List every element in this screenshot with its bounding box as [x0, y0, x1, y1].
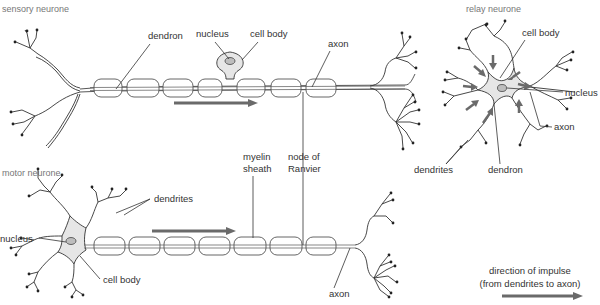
motor-nucleus — [66, 238, 76, 245]
label-relay-cell-body: cell body — [522, 27, 560, 38]
label-motor-dendrites: dendrites — [154, 193, 193, 204]
sensory-neurone-title: sensory neurone — [2, 4, 69, 14]
label-sensory-axon: axon — [328, 38, 349, 49]
label-relay-dendrites: dendrites — [414, 164, 453, 175]
relay-nucleus — [498, 85, 507, 92]
sensory-cell-body — [217, 52, 243, 79]
relay-neurone: relay neurone — [414, 4, 598, 175]
label-motor-node-line1: node of — [288, 151, 320, 162]
label-motor-nucleus: nucleus — [0, 233, 33, 244]
legend-line2: (from dendrites to axon) — [480, 278, 581, 289]
motor-axon-terminals — [355, 192, 398, 299]
sensory-neurone: sensory neurone — [2, 4, 420, 150]
label-motor-axon: axon — [329, 288, 350, 299]
sensory-myelin-sheaths — [90, 79, 405, 97]
motor-neurone: motor neurone — [0, 92, 398, 299]
legend-line1: direction of impulse — [489, 265, 571, 276]
label-relay-dendron: dendron — [488, 164, 523, 175]
label-sensory-nucleus: nucleus — [196, 28, 229, 39]
motor-impulse-arrow — [152, 227, 236, 235]
label-sensory-dendron: dendron — [148, 30, 183, 41]
motor-myelin-sheaths — [84, 237, 355, 255]
legend-arrow-icon — [502, 292, 583, 300]
relay-neurone-title: relay neurone — [466, 4, 521, 14]
label-relay-axon: axon — [554, 121, 575, 132]
sensory-axon-terminals — [370, 32, 420, 151]
impulse-legend: direction of impulse (from dendrites to … — [480, 265, 583, 300]
sensory-dendrite-tree — [10, 29, 80, 148]
label-motor-node-line2: Ranvier — [288, 163, 321, 174]
label-motor-myelin-line2: sheath — [243, 163, 272, 174]
label-sensory-cell-body: cell body — [250, 28, 288, 39]
neurone-diagram: sensory neurone — [0, 0, 600, 305]
label-motor-cell-body: cell body — [103, 274, 141, 285]
label-relay-nucleus: nucleus — [565, 87, 598, 98]
sensory-impulse-arrow — [174, 99, 258, 107]
label-motor-myelin-line1: myelin — [243, 151, 270, 162]
sensory-nucleus — [225, 58, 235, 65]
motor-neurone-title: motor neurone — [2, 168, 61, 178]
